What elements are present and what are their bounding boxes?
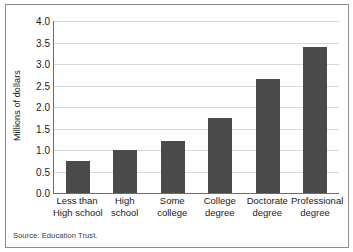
x-axis-tick-label-line: High [101, 195, 149, 207]
x-axis-tick-label-line: College [196, 195, 244, 207]
x-axis-tick-label-line: Professional [291, 195, 339, 207]
y-axis-tick-label: 0.5 [36, 166, 50, 177]
y-axis-tick-label: 3.0 [36, 59, 50, 70]
x-axis-tick-label-line: High school [53, 207, 101, 219]
x-axis-tick-labels: Less thanHigh schoolHighschoolSomecolleg… [53, 195, 339, 218]
x-axis-tick-label-line: school [101, 207, 149, 219]
y-axis-tick-label: 2.0 [36, 102, 50, 113]
y-axis-title: Millions of dollars [10, 31, 24, 181]
bar [161, 141, 185, 193]
y-axis-tick-label: 1.0 [36, 145, 50, 156]
x-axis-tick-label-line: Doctorate [244, 195, 292, 207]
x-axis-tick-label-line: degree [196, 207, 244, 219]
x-axis-tick-label: Highschool [101, 195, 149, 218]
figure: Millions of dollars 4.03.53.02.52.01.51.… [0, 0, 353, 252]
bar [113, 150, 137, 193]
y-axis-tick-label: 3.5 [36, 37, 50, 48]
x-axis-tick-label: Collegedegree [196, 195, 244, 218]
x-axis-tick-label: Doctoratedegree [244, 195, 292, 218]
x-axis-tick-label-line: Some [149, 195, 197, 207]
y-axis-tick-labels: 4.03.53.02.52.01.51.00.50.0 [24, 5, 50, 221]
y-axis-tick-label: 2.5 [36, 80, 50, 91]
x-axis-tick-label-line: degree [291, 207, 339, 219]
figure-frame: Millions of dollars 4.03.53.02.52.01.51.… [5, 4, 349, 248]
y-axis-tick-label: 1.5 [36, 123, 50, 134]
x-axis-tick-label: Less thanHigh school [53, 195, 101, 218]
x-axis-tick-label: Professionaldegree [291, 195, 339, 218]
bar-series [54, 21, 339, 193]
plot-area [53, 21, 339, 194]
source-note: Source: Education Trust. [13, 231, 98, 240]
chart-area: Millions of dollars 4.03.53.02.52.01.51.… [6, 5, 348, 221]
x-axis-tick-label-line: college [149, 207, 197, 219]
y-axis-tick-label: 0.0 [36, 188, 50, 199]
bar [256, 79, 280, 193]
bar [66, 161, 90, 193]
x-axis-tick-label: Somecollege [149, 195, 197, 218]
x-axis-tick-label-line: degree [244, 207, 292, 219]
bar [303, 47, 327, 193]
bar [208, 118, 232, 193]
x-axis-tick-label-line: Less than [53, 195, 101, 207]
y-axis-tick-label: 4.0 [36, 16, 50, 27]
